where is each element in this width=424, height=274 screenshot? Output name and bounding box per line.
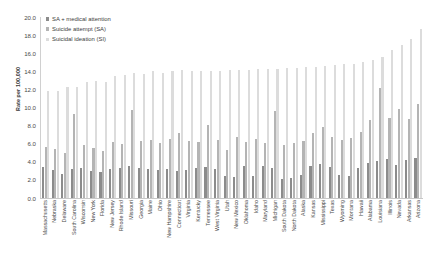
x-axis-tick-label-cell: Mississippi bbox=[318, 200, 328, 272]
bar-group bbox=[194, 17, 204, 198]
x-axis-tick-label: Nevada bbox=[396, 200, 402, 218]
y-axis-tick-label: 2.0 bbox=[10, 176, 36, 183]
bar bbox=[152, 71, 154, 198]
bar bbox=[95, 81, 97, 198]
y-axis-tick-label: 0.0 bbox=[10, 194, 36, 201]
y-axis-tick-label: 4.0 bbox=[10, 158, 36, 165]
bar bbox=[276, 69, 278, 198]
legend-label: SA + medical attention bbox=[52, 16, 111, 22]
x-axis-tick-label-cell: Ohio bbox=[155, 200, 165, 272]
bar bbox=[76, 87, 78, 198]
bar bbox=[372, 60, 374, 198]
bar-group bbox=[156, 17, 166, 198]
bar bbox=[334, 65, 336, 198]
bar bbox=[420, 29, 422, 198]
x-axis-tick-label: Idaho bbox=[253, 200, 259, 213]
x-axis-tick-label: Mississippi bbox=[320, 200, 326, 226]
x-axis-tick-label-cell: South Dakota bbox=[279, 200, 289, 272]
bar bbox=[114, 76, 116, 198]
bar-group bbox=[375, 17, 385, 198]
x-axis-tick-label-cell: Delaware bbox=[59, 200, 69, 272]
bar-group bbox=[347, 17, 357, 198]
x-axis-tick-label: Maryland bbox=[262, 200, 268, 222]
x-axis-tick-label-cell: Missouri bbox=[126, 200, 136, 272]
x-axis-tick-label-cell: Arizona bbox=[414, 200, 424, 272]
plot-area bbox=[40, 17, 423, 198]
x-axis-tick-label: Oklahoma bbox=[243, 200, 249, 224]
y-axis-tick-label: 18.0 bbox=[10, 32, 36, 39]
bars-layer bbox=[41, 17, 423, 198]
x-axis-tick-label-cell: Hawaii bbox=[356, 200, 366, 272]
x-axis-tick-label: Kansas bbox=[310, 200, 316, 218]
legend-entry: SA + medical attention bbox=[46, 16, 111, 22]
bar-group bbox=[356, 17, 366, 198]
x-axis-tick-label-cell: Nevada bbox=[394, 200, 404, 272]
x-axis-tick-label-cell: Utah bbox=[222, 200, 232, 272]
x-axis-tick-label-cell: Kansas bbox=[308, 200, 318, 272]
x-axis-tick-label: South Carolina bbox=[71, 200, 77, 235]
x-axis-tick-label-cell: Connecticut bbox=[174, 200, 184, 272]
bar-group bbox=[146, 17, 156, 198]
bar bbox=[143, 74, 145, 198]
y-axis-tick-label: 20.0 bbox=[10, 14, 36, 21]
bar bbox=[267, 69, 269, 198]
bar bbox=[191, 71, 193, 198]
x-axis-tick-label: Louisiana bbox=[377, 200, 383, 223]
x-axis-tick-label: New York bbox=[90, 200, 96, 222]
x-axis-tick-label: Rhode Island bbox=[118, 200, 124, 231]
x-axis-tick-label-cell: Wisconsin bbox=[78, 200, 88, 272]
bar bbox=[162, 73, 164, 198]
x-axis-tick-label: Hawaii bbox=[358, 200, 364, 216]
bar bbox=[210, 71, 212, 198]
x-axis-tick-label-cell: Florida bbox=[97, 200, 107, 272]
x-axis-tick-label-cell: New Mexico bbox=[232, 200, 242, 272]
bar-group bbox=[394, 17, 404, 198]
x-axis-tick-label: Arkansas bbox=[406, 200, 412, 222]
x-axis-tick-label-cell: Wyoming bbox=[337, 200, 347, 272]
x-axis-tick-label: Kentucky bbox=[195, 200, 201, 222]
x-axis-tick-label: Nebraska bbox=[51, 200, 57, 223]
bar-chart: Rate per 100,000 20.018.016.014.012.010.… bbox=[0, 0, 424, 274]
bar-group bbox=[318, 17, 328, 198]
bar-group bbox=[70, 17, 80, 198]
x-axis-tick-label-cell: Georgia bbox=[136, 200, 146, 272]
bar-group bbox=[337, 17, 347, 198]
x-axis-tick-label-cell: Rhode Island bbox=[117, 200, 127, 272]
bar bbox=[171, 71, 173, 198]
bar bbox=[248, 70, 250, 198]
bar-group bbox=[280, 17, 290, 198]
y-axis-tick-label: 16.0 bbox=[10, 50, 36, 57]
x-axis-tick-label: Michigan bbox=[272, 200, 278, 221]
x-axis-tick-label: South Dakota bbox=[281, 200, 287, 232]
x-axis-tick-label-cell: South Carolina bbox=[69, 200, 79, 272]
bar bbox=[238, 70, 240, 198]
bar bbox=[391, 50, 393, 198]
bar-group bbox=[203, 17, 213, 198]
chart-legend: SA + medical attentionSuicide attempt (S… bbox=[46, 16, 111, 42]
bar bbox=[57, 91, 59, 198]
x-axis-tick-label: Montana bbox=[348, 200, 354, 221]
bar-group bbox=[308, 17, 318, 198]
x-axis-tick-label: Alaska bbox=[300, 200, 306, 216]
bar-group bbox=[51, 17, 61, 198]
bar-group bbox=[222, 17, 232, 198]
x-axis-tick-label-cell: Montana bbox=[347, 200, 357, 272]
bar bbox=[324, 66, 326, 198]
y-axis-tick-label: 12.0 bbox=[10, 86, 36, 93]
x-axis-tick-label-cell: North Dakota bbox=[289, 200, 299, 272]
x-axis-tick-label: Illinois bbox=[387, 200, 393, 215]
bar-group bbox=[136, 17, 146, 198]
x-axis-tick-label: Arizona bbox=[415, 200, 421, 218]
x-axis-tick-label-cell: Texas bbox=[327, 200, 337, 272]
bar-group bbox=[261, 17, 271, 198]
bar-group bbox=[117, 17, 127, 198]
x-axis-tick-label: Alabama bbox=[367, 200, 373, 221]
x-axis-tick-label: Ohio bbox=[157, 200, 163, 211]
x-axis-tick-label-cell: Virginia bbox=[184, 200, 194, 272]
x-axis-tick-label-cell: Alabama bbox=[366, 200, 376, 272]
x-axis-tick-label-cell: Illinois bbox=[385, 200, 395, 272]
bar-group bbox=[184, 17, 194, 198]
bar bbox=[105, 82, 107, 198]
bar-group bbox=[89, 17, 99, 198]
bar-group bbox=[299, 17, 309, 198]
